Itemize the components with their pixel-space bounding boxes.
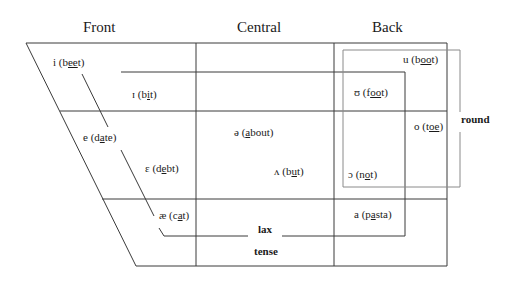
vowel-ae: æ (cat) (159, 209, 189, 222)
lax-diagonal-1 (82, 74, 108, 127)
vowel-small-cap-i: ɪ (bit) (132, 88, 157, 101)
outer-left-diagonal (26, 43, 136, 266)
vowel-o: o (toe) (414, 120, 443, 133)
label-lax: lax (258, 223, 272, 236)
vowel-open-o: ɔ (not) (348, 168, 377, 181)
vowel-upsilon: ʊ (foot) (354, 86, 388, 99)
header-back: Back (372, 19, 403, 36)
label-round: round (461, 113, 490, 126)
vowel-epsilon: ɛ (debt) (145, 162, 179, 175)
vowel-wedge: ʌ (but) (274, 165, 304, 178)
vowel-a: a (pasta) (354, 208, 392, 221)
label-tense: tense (254, 245, 278, 258)
vowel-u: u (boot) (403, 53, 438, 66)
lax-diagonal-2 (121, 150, 154, 216)
header-front: Front (83, 19, 116, 36)
lax-diagonal-3 (159, 228, 164, 236)
vowel-i: i (beet) (53, 56, 84, 69)
header-central: Central (237, 19, 281, 36)
vowel-schwa: ə (about) (234, 126, 273, 139)
vowel-e: e (date) (83, 131, 116, 144)
